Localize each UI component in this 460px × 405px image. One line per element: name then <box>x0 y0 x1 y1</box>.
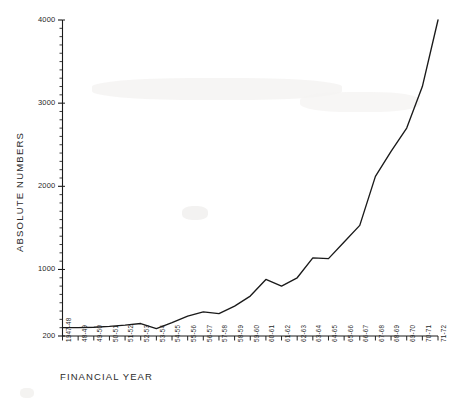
x-tick-label: 49-50 <box>96 325 103 342</box>
x-tick-label: 66-67 <box>362 325 369 342</box>
x-tick-label: 59-60 <box>253 325 260 342</box>
x-tick-label: 57-58 <box>221 325 228 342</box>
x-tick-label: 62-63 <box>300 325 307 342</box>
y-tick-label: 200 <box>30 331 56 340</box>
x-tick-label: 71-72 <box>440 325 447 342</box>
x-tick-label: 65-66 <box>347 325 354 342</box>
x-tick-label: 67-68 <box>378 325 385 342</box>
x-tick-label: 53-54 <box>159 325 166 342</box>
chart-figure: 4000300020001000200 1947-4848-4949-5050-… <box>0 0 460 405</box>
x-tick-label: 55-56 <box>190 325 197 342</box>
x-tick-label: 69-70 <box>409 325 416 342</box>
x-tick-label: 68-69 <box>393 325 400 342</box>
x-axis-title: FINANCIAL YEAR <box>60 371 153 382</box>
plot-area <box>0 0 460 405</box>
x-tick-label: 51-52 <box>127 325 134 342</box>
x-tick-label: 64-65 <box>331 325 338 342</box>
y-tick-label: 2000 <box>30 181 56 190</box>
y-tick-label: 1000 <box>30 264 56 273</box>
x-tick-label: 63-64 <box>315 325 322 342</box>
x-tick-label: 48-49 <box>81 325 88 342</box>
y-tick-label: 4000 <box>30 15 56 24</box>
axes <box>63 20 439 336</box>
x-tick-label: 52-53 <box>143 325 150 342</box>
x-tick-label: 60-61 <box>268 325 275 342</box>
x-tick-label: 56-57 <box>206 325 213 342</box>
x-tick-label: 50-51 <box>112 325 119 342</box>
y-tick-label: 3000 <box>30 98 56 107</box>
x-tick-label: 61-62 <box>284 325 291 342</box>
y-axis-title: ABSOLUTE NUMBERS <box>14 132 25 252</box>
x-tick-label: 1947-48 <box>65 317 72 342</box>
x-tick-label: 54-55 <box>174 325 181 342</box>
x-tick-label: 70-71 <box>425 325 432 342</box>
y-axis-ticks <box>58 20 65 336</box>
x-tick-label: 58-59 <box>237 325 244 342</box>
data-series-line <box>63 20 439 329</box>
